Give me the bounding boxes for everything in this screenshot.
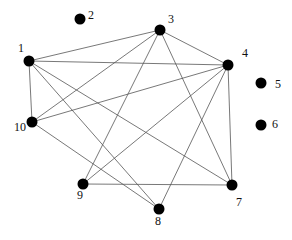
- node-4: [223, 60, 234, 71]
- node-label-2: 2: [88, 8, 94, 22]
- labels-layer: 12345678910: [14, 8, 281, 228]
- node-7: [227, 180, 238, 191]
- node-label-5: 5: [275, 77, 281, 91]
- edge-4-8: [159, 65, 228, 209]
- node-label-9: 9: [77, 188, 83, 202]
- node-3: [155, 25, 166, 36]
- edge-1-7: [29, 61, 232, 185]
- node-label-3: 3: [168, 12, 174, 26]
- graph-diagram: 12345678910: [0, 0, 292, 240]
- node-label-6: 6: [272, 117, 278, 131]
- edge-4-9: [83, 65, 228, 184]
- edge-1-10: [29, 61, 32, 122]
- node-1: [24, 56, 35, 67]
- node-label-8: 8: [155, 214, 161, 228]
- edge-3-7: [160, 30, 232, 185]
- edge-4-7: [228, 65, 232, 185]
- node-10: [27, 117, 38, 128]
- edges-layer: [29, 30, 232, 209]
- edge-1-4: [29, 61, 228, 65]
- node-label-4: 4: [242, 46, 248, 60]
- node-8: [154, 204, 165, 215]
- node-5: [256, 78, 267, 89]
- edge-9-7: [83, 184, 232, 185]
- node-label-10: 10: [14, 120, 26, 134]
- node-2: [75, 14, 86, 25]
- node-label-1: 1: [18, 41, 24, 55]
- edge-1-3: [29, 30, 160, 61]
- edge-10-8: [32, 122, 159, 209]
- edge-1-8: [29, 61, 159, 209]
- edge-3-4: [160, 30, 228, 65]
- edge-3-10: [32, 30, 160, 122]
- node-label-7: 7: [236, 195, 242, 209]
- edge-3-9: [83, 30, 160, 184]
- node-6: [256, 120, 267, 131]
